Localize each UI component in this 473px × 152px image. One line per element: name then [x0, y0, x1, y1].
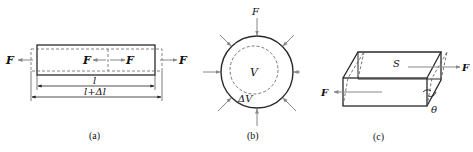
elasticity-diagram: F F F F l l+Δl (a) V ΔV F — [0, 0, 473, 152]
caption-a: (a) — [89, 130, 100, 142]
compression-arrow-se — [283, 98, 296, 111]
force-label-mid-left: F — [82, 54, 92, 67]
dimension-l-plus-dl-label: l+Δl — [84, 86, 106, 97]
volume-change-label: ΔV — [237, 93, 254, 104]
sheared-left-dashed-2 — [358, 52, 364, 79]
panel-a: F F F F l l+Δl (a) — [5, 45, 188, 142]
compression-arrow-ne — [283, 35, 294, 46]
force-label-mid-right: F — [125, 54, 135, 67]
area-label: S — [393, 58, 400, 69]
shear-force-label-bottom: F — [320, 87, 329, 98]
panel-b: V ΔV F (b) — [203, 6, 300, 142]
sheared-right-dashed-2 — [441, 52, 447, 80]
force-label-top: F — [251, 6, 260, 17]
panel-c: S F F θ (c) — [320, 52, 470, 143]
shear-force-label-top: F — [461, 62, 470, 73]
compression-arrow-nw — [220, 35, 231, 46]
shear-angle-label: θ — [431, 104, 437, 115]
volume-label: V — [250, 66, 259, 79]
caption-c: (c) — [373, 131, 384, 143]
caption-b: (b) — [247, 130, 259, 142]
force-label-left: F — [5, 54, 15, 67]
dimension-l-label: l — [93, 75, 96, 86]
force-label-right: F — [178, 54, 188, 67]
compression-arrow-sw — [218, 98, 231, 111]
